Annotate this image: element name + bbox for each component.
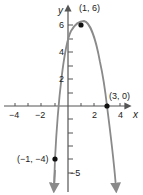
y-tick-label: 6 (59, 20, 64, 30)
y-tick-label: 4 (59, 47, 64, 57)
y-ticks (68, 25, 73, 173)
x-tick-label: 2 (92, 110, 97, 120)
x-tick-label: −4 (9, 110, 19, 120)
x-axis-label: x (132, 109, 139, 120)
y-tick-label: −5 (70, 168, 80, 178)
parabola-chart: −4 −2 2 4 6 4 2 −5 y x (1, 6) (3, 0) (−1… (0, 0, 143, 195)
vertex-label: (1, 6) (79, 3, 100, 13)
vertex-point (78, 22, 83, 27)
x-tick-label: 4 (118, 110, 123, 120)
x-intercept-point (104, 103, 109, 108)
parabola-left-arrow (54, 170, 55, 188)
x-intercept-label: (3, 0) (109, 91, 130, 101)
left-point (52, 156, 57, 161)
x-tick-label: −2 (35, 110, 45, 120)
y-tick-label: 2 (59, 74, 64, 84)
left-point-label: (−1, −4) (17, 154, 49, 164)
y-axis-label: y (57, 5, 64, 16)
